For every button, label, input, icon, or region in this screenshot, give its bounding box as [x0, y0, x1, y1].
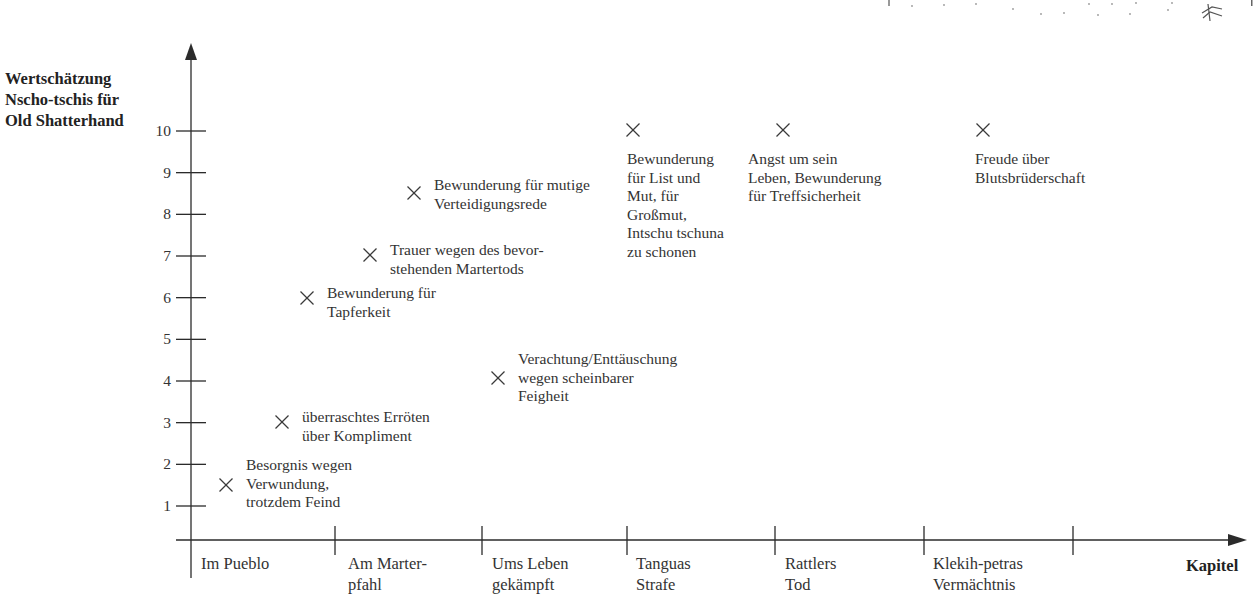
x-marker-icon [492, 372, 505, 385]
y-tick-label: 2 [141, 454, 171, 474]
page-edge-mark [1251, 0, 1253, 6]
point-annotation: überraschtes Erröten über Kompliment [302, 408, 430, 445]
point-annotation: Bewunderung für mutige Verteidigungsrede [434, 176, 590, 213]
x-marker-icon [301, 292, 314, 305]
y-tick-label: 6 [141, 288, 171, 308]
x-marker-icon [408, 187, 421, 200]
x-marker-icon [977, 124, 990, 137]
y-tick-label: 3 [141, 413, 171, 433]
decorative-illustration-fragment [888, 0, 1173, 16]
y-tick-label: 8 [141, 204, 171, 224]
x-marker-icon [220, 479, 233, 492]
chapter-label: Klekih-petras Vermächtnis [933, 553, 1023, 595]
chapter-label: Tanguas Strafe [636, 553, 691, 595]
chapter-label: Im Pueblo [201, 553, 269, 574]
x-axis-title: Kapitel [1186, 555, 1238, 576]
x-marker-icon [777, 124, 790, 137]
y-axis-arrowhead [185, 43, 197, 60]
y-tick-label: 7 [141, 246, 171, 266]
y-tick-label: 5 [141, 329, 171, 349]
chapter-label: Am Marter- pfahl [348, 553, 427, 595]
point-annotation: Freude über Blutsbrüderschaft [975, 150, 1085, 187]
chapter-label: Ums Leben gekämpft [492, 553, 569, 595]
y-tick-label: 10 [141, 121, 171, 141]
x-marker-icon [364, 249, 377, 262]
x-marker-icon [276, 416, 289, 429]
y-tick-label: 1 [141, 496, 171, 516]
point-annotation: Trauer wegen des bevor- stehenden Marter… [390, 241, 544, 278]
point-annotation: Bewunderung für List und Mut, für Großmu… [627, 150, 724, 261]
chapter-label: Rattlers Tod [785, 553, 836, 595]
y-tick-label: 9 [141, 163, 171, 183]
point-annotation: Verachtung/Enttäuschung wegen scheinbare… [518, 350, 677, 406]
y-axis-title: Wertschätzung Nscho-tschis für Old Shatt… [5, 68, 124, 131]
point-annotation: Bewunderung für Tapferkeit [327, 284, 436, 321]
point-annotation: Angst um sein Leben, Bewunderung für Tre… [748, 150, 881, 206]
x-marker-icon [627, 124, 640, 137]
chart-canvas [0, 0, 1260, 608]
tree-sketch-icon [1202, 4, 1222, 21]
y-tick-label: 4 [141, 371, 171, 391]
x-axis-arrowhead [1228, 534, 1247, 546]
point-annotation: Besorgnis wegen Verwundung, trotzdem Fei… [246, 456, 352, 512]
